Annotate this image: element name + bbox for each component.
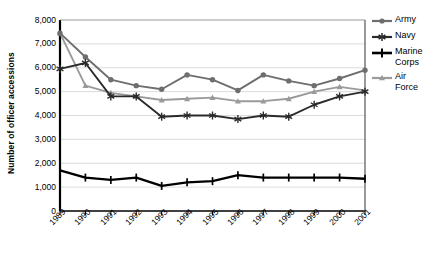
legend-item-air-force[interactable]: Air Force xyxy=(371,71,438,93)
data-point-marker xyxy=(311,83,316,88)
legend-label-navy: Navy xyxy=(393,30,416,41)
series-army xyxy=(57,30,367,93)
legend-item-marine-corps[interactable]: Marine Corps xyxy=(371,46,438,68)
data-series-layer xyxy=(57,30,369,190)
data-point-marker xyxy=(286,78,291,83)
data-point-marker xyxy=(261,72,266,77)
data-point-marker xyxy=(337,76,342,81)
series-air-force xyxy=(57,30,368,103)
legend-label-army: Army xyxy=(393,14,416,25)
legend-label-force: Force xyxy=(393,82,418,93)
data-point-marker xyxy=(184,72,189,77)
data-point-marker xyxy=(57,30,62,35)
legend-marker-navy xyxy=(371,31,393,43)
data-point-marker xyxy=(235,88,240,93)
legend-marker-marine-corps xyxy=(371,47,393,59)
legend-label-corps: Corps xyxy=(393,57,423,68)
series-marine-corps xyxy=(60,166,365,190)
data-point-marker xyxy=(210,77,215,82)
chart-container: Number of officer accessions 8,0007,0006… xyxy=(0,0,438,259)
legend-item-navy[interactable]: Navy xyxy=(371,30,438,43)
legend-label-marine: Marine xyxy=(393,46,423,57)
data-point-marker xyxy=(108,77,113,82)
chart-legend: Army Navy Marine Corps xyxy=(371,14,438,96)
legend-item-army[interactable]: Army xyxy=(371,14,438,27)
data-point-marker xyxy=(134,83,139,88)
legend-marker-army xyxy=(371,15,393,27)
legend-label-air: Air xyxy=(393,71,418,82)
data-point-marker xyxy=(362,67,367,72)
data-point-marker xyxy=(83,54,88,59)
legend-marker-air-force xyxy=(371,72,393,84)
data-point-marker xyxy=(159,87,164,92)
